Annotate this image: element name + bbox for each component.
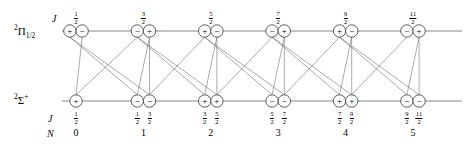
parity-sign: −	[404, 26, 409, 36]
lower-level-node: −	[131, 95, 143, 107]
parity-sign: −	[270, 96, 275, 106]
parity-sign: −	[282, 96, 287, 106]
fraction-denominator: 2	[270, 119, 274, 126]
upper-level-node: −	[76, 25, 88, 37]
lower-n-label: 2	[208, 128, 213, 138]
upper-j-label: 112	[409, 11, 416, 25]
transition-line	[70, 37, 137, 95]
transition-line	[76, 37, 82, 95]
fraction-denominator: 2	[141, 19, 145, 26]
parity-sign: −	[404, 96, 409, 106]
lower-n-label: 5	[411, 128, 416, 138]
parity-sign: +	[147, 26, 152, 36]
transition-line	[137, 37, 204, 95]
transition-lines	[70, 37, 419, 95]
lower-level-node: +	[333, 95, 345, 107]
parity-sign: +	[73, 96, 78, 106]
lower-j-label: 12	[74, 111, 78, 125]
parity-sign: +	[337, 96, 342, 106]
parity-sign: −	[349, 26, 354, 36]
upper-j-label: 52	[209, 11, 213, 25]
lower-n-label: 1	[141, 128, 146, 138]
lower-state-superscript: +	[24, 92, 28, 101]
fraction-denominator: 2	[405, 119, 409, 126]
fraction-denominator: 2	[276, 19, 280, 26]
fraction-denominator: 2	[209, 19, 213, 26]
lower-j-label: 72	[337, 111, 341, 125]
transition-line	[284, 37, 339, 95]
parity-sign: +	[202, 26, 207, 36]
upper-j-label: 92	[343, 11, 347, 25]
upper-level-node: +	[64, 25, 76, 37]
parity-sign: −	[417, 96, 422, 106]
transition-line	[150, 37, 205, 95]
upper-j-label: 12	[74, 11, 78, 25]
upper-level-node: +	[413, 25, 425, 37]
transition-line	[70, 37, 150, 95]
fraction-denominator: 2	[282, 119, 286, 126]
fraction-denominator: 2	[74, 119, 78, 126]
upper-j-label: 32	[141, 11, 145, 25]
transition-line	[76, 37, 137, 95]
fraction-denominator: 2	[343, 19, 347, 26]
lower-level-node: +	[346, 95, 358, 107]
transition-line	[407, 37, 419, 95]
parity-sign: +	[67, 26, 72, 36]
lower-j-label: 92	[350, 111, 354, 125]
upper-state-subscript: 1/2	[26, 31, 36, 40]
upper-level-node: +	[333, 25, 345, 37]
parity-sign: +	[282, 26, 287, 36]
transition-line	[137, 37, 149, 95]
lower-j-label: 32	[203, 111, 207, 125]
fraction-denominator: 2	[147, 119, 151, 126]
lower-level-node: +	[70, 95, 82, 107]
lower-level-node: −	[143, 95, 155, 107]
lower-state-label: 2Σ+	[14, 93, 28, 106]
lower-n-label: 0	[74, 128, 79, 138]
parity-sign: −	[147, 96, 152, 106]
lower-n-label: 4	[343, 128, 348, 138]
lower-j-label: 92	[405, 111, 409, 125]
fraction-denominator: 2	[74, 19, 78, 26]
lower-j-label: 12	[135, 111, 139, 125]
upper-level-node: −	[211, 25, 223, 37]
lower-j-label: 32	[147, 111, 151, 125]
lower-level-node: −	[278, 95, 290, 107]
transition-line	[272, 37, 339, 95]
row-key-j-lower: J	[48, 114, 52, 124]
parity-sign: +	[337, 26, 342, 36]
lower-j-label: 112	[415, 111, 422, 125]
upper-level-node: +	[143, 25, 155, 37]
parity-sign: +	[214, 96, 219, 106]
upper-state-symbol: Π	[18, 25, 26, 37]
transition-line	[205, 37, 217, 95]
fraction-denominator: 2	[409, 19, 416, 26]
transition-line	[205, 37, 272, 95]
transition-line	[272, 37, 284, 95]
lower-level-node: −	[401, 95, 413, 107]
lower-level-node: −	[413, 95, 425, 107]
lower-j-label: 52	[270, 111, 274, 125]
parity-sign: +	[417, 26, 422, 36]
lower-j-label: 52	[215, 111, 219, 125]
upper-j-label: 72	[276, 11, 280, 25]
parity-sign: −	[214, 26, 219, 36]
level-diagram-canvas: +−−++−−++−−++−−++−−++−−	[0, 0, 467, 144]
lower-j-label: 72	[282, 111, 286, 125]
upper-state-label: 2Π1/2	[14, 24, 35, 39]
upper-level-node: +	[199, 25, 211, 37]
upper-level-node: +	[278, 25, 290, 37]
row-key-j-upper: J	[52, 14, 56, 24]
lower-n-label: 3	[276, 128, 281, 138]
fraction-denominator: 2	[415, 119, 422, 126]
transition-line	[340, 37, 407, 95]
fraction-denominator: 2	[350, 119, 354, 126]
fraction-denominator: 2	[337, 119, 341, 126]
upper-level-node: −	[266, 25, 278, 37]
transition-line	[352, 37, 407, 95]
lower-level-node: +	[211, 95, 223, 107]
lower-level-node: +	[199, 95, 211, 107]
fraction-denominator: 2	[135, 119, 139, 126]
transition-line	[217, 37, 272, 95]
upper-level-node: −	[131, 25, 143, 37]
